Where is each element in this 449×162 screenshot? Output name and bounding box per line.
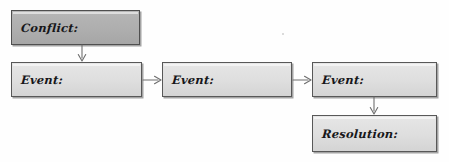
node-conflict[interactable]: Conflict: xyxy=(11,10,140,45)
node-resolution[interactable]: Resolution: xyxy=(312,115,437,152)
node-conflict-label: Conflict: xyxy=(12,21,79,35)
node-event-3-label: Event: xyxy=(313,73,365,87)
arrow-event-3-to-resolution xyxy=(368,97,380,114)
node-event-2-label: Event: xyxy=(163,73,215,87)
scan-speck xyxy=(282,33,284,35)
arrow-event-2-to-event-3 xyxy=(293,74,311,86)
arrow-conflict-to-event-1 xyxy=(76,45,88,61)
node-event-2[interactable]: Event: xyxy=(162,62,292,97)
flowchart-canvas: Conflict: Event: Event: Event: Resolutio… xyxy=(0,0,449,162)
node-resolution-label: Resolution: xyxy=(313,127,399,141)
node-event-3[interactable]: Event: xyxy=(312,62,437,97)
node-event-1[interactable]: Event: xyxy=(11,62,142,97)
arrow-event-1-to-event-2 xyxy=(143,74,161,86)
node-event-1-label: Event: xyxy=(12,73,64,87)
